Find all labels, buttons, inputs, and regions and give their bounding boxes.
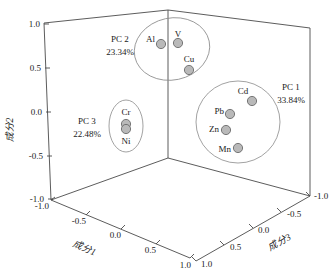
frame-top-right-edge (168, 10, 310, 28)
point-label-v: V (175, 29, 182, 39)
point-label-mn: Mn (218, 144, 231, 154)
x-tick-label: 1.0 (180, 260, 192, 270)
chart-canvas: 1.0 0.5 0.0 -0.5 -1.0 成分2 -1.0 -0.5 0.0 … (0, 0, 330, 278)
point-label-cd: Cd (238, 86, 249, 96)
x-tick-mark (156, 240, 160, 244)
data-point-cu[interactable]: Cu (184, 54, 195, 75)
point-label-al: Al (146, 34, 155, 44)
frame-top-left-edge (44, 10, 168, 23)
z-axis-title: 成分3 (266, 232, 293, 253)
z-tick-label: 0.0 (258, 225, 270, 235)
point-marker-zn[interactable] (221, 125, 230, 134)
frame-floor-left-edge (51, 158, 168, 200)
z-tick-mark (249, 224, 253, 228)
y-tick-label: 0.0 (31, 107, 43, 117)
cluster-name-pc3: PC 3 (78, 116, 96, 126)
point-marker-pb[interactable] (225, 109, 234, 118)
data-point-v[interactable]: V (173, 29, 182, 48)
point-label-ni: Ni (122, 136, 131, 146)
point-marker-v[interactable] (173, 38, 182, 47)
data-point-ni[interactable]: Ni (121, 124, 131, 146)
x-tick-label: -1.0 (35, 201, 50, 211)
data-point-cd[interactable]: Cd (238, 86, 257, 106)
point-marker-ni[interactable] (121, 124, 130, 133)
point-label-zn: Zn (209, 124, 219, 134)
cluster-variance-pc3: 22.48% (73, 129, 101, 139)
point-label-pb: Pb (214, 106, 224, 116)
point-marker-mn[interactable] (233, 143, 242, 152)
z-tick-label: 1.0 (201, 259, 213, 269)
data-point-zn[interactable]: Zn (209, 124, 231, 135)
x-tick-mark (86, 211, 90, 215)
x-axis-ticks: -1.0 -0.5 0.0 0.5 1.0 (35, 197, 194, 270)
z-tick-label: -1.0 (314, 191, 329, 201)
x-axis-line (51, 200, 190, 258)
y-axis-line (44, 23, 51, 200)
point-label-cu: Cu (184, 54, 195, 64)
data-point-pb[interactable]: Pb (214, 106, 234, 119)
data-point-mn[interactable]: Mn (218, 143, 242, 154)
point-label-cr: Cr (122, 107, 131, 117)
x-axis-title: 成分1 (71, 239, 98, 258)
y-tick-label: 0.5 (30, 63, 42, 73)
y-axis-title: 成分2 (5, 117, 15, 142)
z-tick-mark (192, 257, 196, 261)
x-tick-label: -0.5 (72, 216, 87, 226)
x-tick-label: 0.5 (145, 245, 157, 255)
cluster-label-pc2: PC 2 23.34% (106, 34, 134, 57)
z-tick-label: -0.5 (287, 209, 302, 219)
cluster-ellipse-pc2 (128, 11, 215, 87)
data-point-al[interactable]: Al (146, 34, 166, 49)
z-tick-label: 0.5 (230, 242, 242, 252)
y-axis-ticks: 1.0 0.5 0.0 -0.5 -1.0 (29, 19, 53, 204)
frame-floor-right-edge (168, 158, 310, 196)
y-tick-label: 1.0 (29, 19, 41, 29)
z-axis-ticks: -1.0 -0.5 0.0 0.5 1.0 (192, 191, 329, 269)
point-marker-al[interactable] (156, 39, 165, 48)
pca-3d-scatter-plot: 1.0 0.5 0.0 -0.5 -1.0 成分2 -1.0 -0.5 0.0 … (0, 0, 330, 278)
x-tick-mark (121, 225, 125, 229)
z-axis-line (196, 196, 310, 261)
cluster-variance-pc2: 23.34% (106, 47, 134, 57)
cluster-label-pc3: PC 3 22.48% (73, 116, 101, 139)
z-tick-mark (277, 208, 281, 212)
point-marker-cd[interactable] (247, 96, 256, 105)
cluster-label-pc1: PC 1 33.84% (277, 82, 305, 105)
cluster-variance-pc1: 33.84% (277, 95, 305, 105)
z-tick-mark (220, 241, 224, 245)
cluster-name-pc1: PC 1 (282, 82, 300, 92)
cluster-name-pc2: PC 2 (111, 34, 129, 44)
y-tick-label: -0.5 (29, 151, 44, 161)
x-tick-label: 0.0 (110, 230, 122, 240)
point-marker-cu[interactable] (184, 65, 193, 74)
